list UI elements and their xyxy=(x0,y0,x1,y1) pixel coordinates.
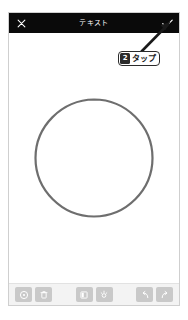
app-bar: テキスト xyxy=(9,13,179,33)
toolbar-group-right xyxy=(136,287,173,302)
redo-arrow-icon[interactable] xyxy=(156,287,173,302)
toolbar-group-center xyxy=(76,287,113,302)
brightness-icon[interactable] xyxy=(96,287,113,302)
half-filled-square-icon[interactable] xyxy=(76,287,93,302)
phone-screen: テキスト xyxy=(8,12,180,306)
checkmark-icon[interactable] xyxy=(160,16,174,30)
close-x-icon[interactable] xyxy=(14,16,28,30)
drawn-circle-shape[interactable] xyxy=(33,97,155,219)
toolbar-group-left xyxy=(15,287,52,302)
drawing-canvas[interactable] xyxy=(9,33,179,283)
trash-icon[interactable] xyxy=(35,287,52,302)
undo-arrow-icon[interactable] xyxy=(136,287,153,302)
bottom-toolbar xyxy=(9,283,179,305)
color-circle-icon[interactable] xyxy=(15,287,32,302)
page-title: テキスト xyxy=(28,20,160,27)
